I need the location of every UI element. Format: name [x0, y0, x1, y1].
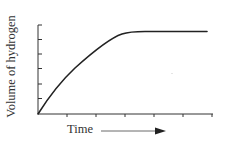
x-axis-label: Time [67, 122, 93, 137]
volume-curve [38, 32, 207, 115]
time-arrow-head-icon [155, 128, 166, 135]
y-ticks [38, 25, 42, 99]
chart [0, 0, 225, 141]
y-axis-label-text: Volume of hydrogen [4, 15, 19, 118]
speck [172, 73, 173, 74]
y-axis-label: Volume of hydrogen [2, 14, 20, 118]
